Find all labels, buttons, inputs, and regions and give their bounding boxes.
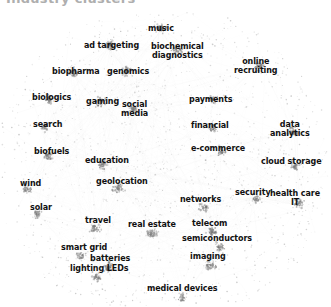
node-label: data analytics [270,120,310,139]
node-label: lighting LEDs [70,264,128,274]
node-label: e-commerce [191,144,245,154]
node-label: medical devices [147,284,217,294]
node-label: biologics [32,93,71,103]
node-label: batteries [90,254,130,264]
node-label: gaming [86,97,119,107]
node-label: wind [20,179,41,189]
node-label: smart grid [61,243,107,253]
node-label: travel [85,216,111,226]
node-label: genomics [107,67,149,77]
node-label: payments [189,95,232,105]
node-label: education [85,156,129,166]
node-label: security [235,188,271,198]
node-label: online recruiting [234,57,278,76]
node-label: music [148,24,174,34]
node-label: semiconductors [182,234,252,244]
node-label: health care IT [270,189,320,208]
node-label: biochemical diagnostics [151,42,204,61]
node-label: search [33,120,62,130]
node-label: cloud storage [261,157,321,167]
node-label: networks [180,195,221,205]
node-label: biopharma [52,67,100,77]
node-label: financial [191,121,229,131]
node-label: solar [30,203,52,213]
node-label: biofuels [34,147,69,157]
network-graph-figure: Industry clusters musicad targetingbioch… [0,0,331,307]
node-label: real estate [128,220,176,230]
node-label: ad targeting [84,41,139,51]
node-label: imaging [190,252,226,262]
node-label: social media [121,100,148,119]
node-label: geolocation [96,177,148,187]
node-label: telecom [192,219,227,229]
